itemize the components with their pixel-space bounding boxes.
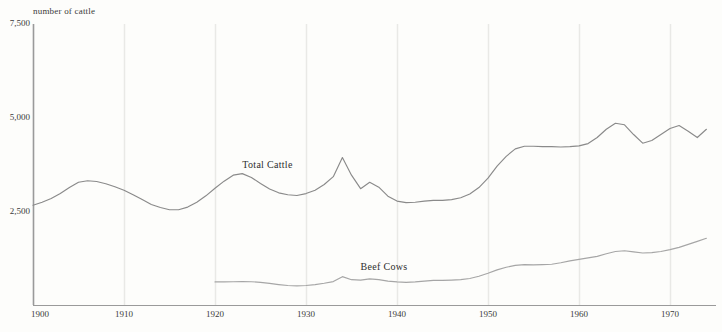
y-tick-7500: 7,500: [0, 18, 30, 28]
x-tick-1940: 1940: [377, 309, 417, 319]
line-chart: [0, 0, 722, 332]
series-label-beef-cows: Beef Cows: [361, 261, 408, 272]
series-line-beef-cows: [215, 238, 706, 286]
x-tick-1960: 1960: [559, 309, 599, 319]
series-label-total-cattle: Total Cattle: [242, 159, 292, 170]
x-tick-1930: 1930: [286, 309, 326, 319]
y-tick-2500: 2,500: [0, 206, 30, 216]
x-tick-1950: 1950: [468, 309, 508, 319]
y-tick-5000: 5,000: [0, 112, 30, 122]
x-tick-1970: 1970: [650, 309, 690, 319]
chart-page: number of cattle 2,5005,0007,500 1900191…: [0, 0, 722, 332]
x-tick-1910: 1910: [104, 309, 144, 319]
series-line-total-cattle: [33, 123, 706, 209]
x-tick-1900: 1900: [31, 309, 71, 319]
x-tick-1920: 1920: [195, 309, 235, 319]
